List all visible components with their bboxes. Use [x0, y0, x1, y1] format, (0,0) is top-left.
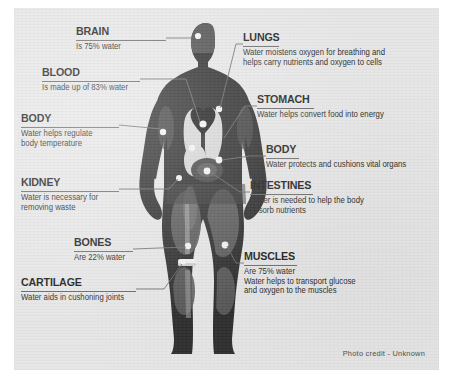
- callout-brain-line-0: Is 75% water: [76, 42, 162, 52]
- callout-blood-body: Is made up of 83% water: [42, 83, 135, 93]
- callout-intestines-title: INTESTINES: [250, 179, 311, 191]
- callout-intestines-line-1: absorb nutrients: [250, 206, 393, 216]
- callout-blood: BLOOD Is made up of 83% water: [42, 62, 140, 93]
- callout-blood-rule: [42, 81, 140, 82]
- marker-lungs: [216, 106, 222, 112]
- callout-body-right-line-0: Water protects and cushions vital organs: [266, 160, 418, 170]
- callout-body-right-rule: [266, 158, 299, 159]
- callout-bones-body: Are 22% water: [74, 253, 130, 263]
- callout-body-left-line-0: Water helps regulate: [21, 129, 114, 139]
- callout-kidney: KIDNEY Water is necessary for removing w…: [21, 172, 119, 212]
- marker-brain: [195, 33, 201, 39]
- marker-intestines: [204, 168, 211, 175]
- callout-intestines-rule: [250, 194, 313, 195]
- callout-kidney-body: Water is necessary for removing waste: [21, 193, 114, 212]
- callout-brain-body: Is 75% water: [76, 42, 162, 52]
- callout-bones-rule: [74, 251, 133, 252]
- marker-stomach: [189, 145, 195, 151]
- marker-muscles: [222, 242, 229, 249]
- callout-lungs-line-0: Water moistens oxygen for breathing and: [243, 48, 390, 58]
- callout-kidney-rule: [21, 191, 119, 192]
- callout-muscles-rule: [244, 265, 297, 266]
- callout-body-right: BODY Water protects and cushions vital o…: [266, 139, 426, 170]
- callout-cartilage-line-0: Water aids in cushoning joints: [21, 293, 130, 303]
- callout-blood-title: BLOOD: [42, 66, 80, 78]
- callout-body-left-rule: [21, 127, 119, 128]
- callout-stomach-title: STOMACH: [257, 93, 310, 105]
- callout-muscles-body: Are 75% water Water helps to transport g…: [244, 267, 387, 296]
- callout-body-left: BODY Water helps regulate body temperatu…: [21, 108, 119, 148]
- callout-bones-title: BONES: [74, 236, 111, 248]
- callout-kidney-title: KIDNEY: [21, 176, 60, 188]
- marker-cartilage: [180, 259, 185, 264]
- callout-cartilage: CARTILAGE Water aids in cushoning joints: [21, 272, 136, 303]
- brain-region: [191, 23, 215, 53]
- callout-brain-rule: [76, 40, 166, 41]
- callout-cartilage-rule: [21, 291, 136, 292]
- callout-blood-line-0: Is made up of 83% water: [42, 83, 135, 93]
- callout-intestines-line-0: Water is needed to help the body: [250, 196, 393, 206]
- callout-body-left-line-1: body temperature: [21, 139, 114, 149]
- callout-lungs-line-1: helps carry nutrients and oxygen to cell…: [243, 58, 390, 68]
- callout-muscles: MUSCLES Are 75% water Water helps to tra…: [244, 246, 394, 296]
- callout-muscles-line-2: and oxygen to the muscles: [244, 286, 387, 296]
- callout-stomach-line-0: Water helps convert food into energy: [257, 110, 409, 120]
- callout-brain: BRAIN Is 75% water: [76, 21, 166, 52]
- callout-kidney-line-1: removing waste: [21, 203, 114, 213]
- callout-body-left-title: BODY: [21, 112, 51, 124]
- water-in-body-infographic: BRAIN Is 75% water BLOOD Is made up of 8…: [14, 8, 439, 370]
- callout-lungs: LUNGS Water moistens oxygen for breathin…: [243, 27, 398, 67]
- callout-muscles-line-0: Are 75% water: [244, 267, 387, 277]
- callout-brain-title: BRAIN: [76, 25, 109, 37]
- photo-credit: Photo credit - Unknown: [343, 349, 425, 358]
- callout-lungs-body: Water moistens oxygen for breathing and …: [243, 48, 390, 67]
- callout-body-right-body: Water protects and cushions vital organs: [266, 160, 418, 170]
- callout-cartilage-body: Water aids in cushoning joints: [21, 293, 130, 303]
- callout-intestines: INTESTINES Water is needed to help the b…: [250, 175, 400, 215]
- marker-body-right: [216, 157, 223, 164]
- callout-lungs-title: LUNGS: [243, 31, 280, 43]
- marker-bones: [185, 243, 191, 249]
- marker-kidney: [176, 175, 182, 181]
- callout-bones: BONES Are 22% water: [74, 232, 133, 263]
- callout-lungs-rule: [243, 46, 279, 47]
- callout-body-left-body: Water helps regulate body temperature: [21, 129, 114, 148]
- callout-stomach: STOMACH Water helps convert food into en…: [257, 89, 417, 120]
- callout-kidney-line-0: Water is necessary for: [21, 193, 114, 203]
- callout-bones-line-0: Are 22% water: [74, 253, 130, 263]
- callout-stomach-body: Water helps convert food into energy: [257, 110, 409, 120]
- callout-muscles-title: MUSCLES: [244, 250, 295, 262]
- callout-intestines-body: Water is needed to help the body absorb …: [250, 196, 393, 215]
- marker-blood: [199, 120, 206, 127]
- marker-body-left: [160, 129, 166, 135]
- callout-body-right-title: BODY: [266, 143, 296, 155]
- callout-stomach-rule: [257, 108, 314, 109]
- callout-cartilage-title: CARTILAGE: [21, 276, 82, 288]
- callout-muscles-line-1: Water helps to transport glucose: [244, 277, 387, 287]
